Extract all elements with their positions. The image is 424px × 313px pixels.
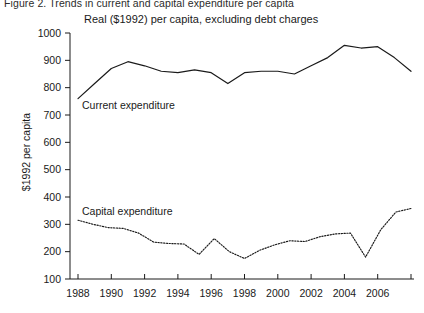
svg-text:400: 400 xyxy=(43,191,61,203)
svg-text:2000: 2000 xyxy=(266,287,290,299)
svg-text:200: 200 xyxy=(43,245,61,257)
chart-plot-area: 1000900800700600500400300200100 19881990… xyxy=(0,0,424,313)
svg-text:1990: 1990 xyxy=(100,287,124,299)
y-tick-labels: 1000900800700600500400300200100 xyxy=(38,27,62,285)
svg-text:1994: 1994 xyxy=(166,287,190,299)
figure-root: Figure 2. Trends in current and capital … xyxy=(0,0,424,313)
y-tick-marks xyxy=(65,33,70,279)
svg-text:2004: 2004 xyxy=(333,287,357,299)
svg-text:1998: 1998 xyxy=(233,287,257,299)
svg-text:600: 600 xyxy=(43,136,61,148)
svg-text:900: 900 xyxy=(43,54,61,66)
series-line-capital xyxy=(78,208,411,258)
svg-text:800: 800 xyxy=(43,81,61,93)
svg-text:1988: 1988 xyxy=(66,287,90,299)
svg-text:1000: 1000 xyxy=(38,27,62,39)
svg-text:500: 500 xyxy=(43,163,61,175)
svg-text:700: 700 xyxy=(43,109,61,121)
svg-text:300: 300 xyxy=(43,218,61,230)
svg-text:2002: 2002 xyxy=(299,287,323,299)
series-line-current xyxy=(78,45,411,98)
svg-text:100: 100 xyxy=(43,273,61,285)
svg-text:2006: 2006 xyxy=(366,287,390,299)
svg-text:1996: 1996 xyxy=(200,287,224,299)
x-tick-marks xyxy=(78,274,411,279)
svg-text:1992: 1992 xyxy=(133,287,157,299)
x-tick-labels: 1988199019921994199619982000200220042006 xyxy=(66,287,389,299)
